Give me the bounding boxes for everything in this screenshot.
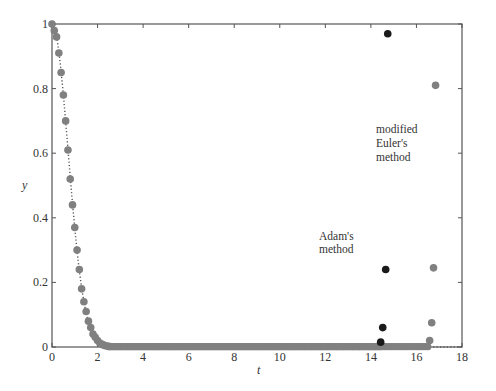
x-tick-label: 18 [456,350,468,364]
euler-point [48,20,56,28]
y-tick-label: 0.8 [33,82,48,96]
annotation-line: method [319,243,354,255]
euler-point [80,298,88,306]
x-axis-label: t [257,363,261,377]
adams-point [379,324,387,332]
exact-curve-path [52,24,462,347]
y-tick-label: 0.6 [33,146,48,160]
plot-frame [52,24,462,347]
euler-point [50,27,58,35]
euler-point [87,324,95,332]
x-tick-label: 12 [319,350,331,364]
euler-point [428,319,436,327]
euler-point [69,201,77,209]
euler-point [430,264,438,272]
euler-point [62,117,70,125]
x-tick-label: 6 [186,350,192,364]
euler-point [78,285,86,293]
annotation-adams: Adam's method [319,230,354,255]
euler-point [71,224,79,232]
y-axis-label: y [21,178,28,192]
plot-border [52,24,462,347]
euler-point [426,337,434,345]
y-tick-label: 0.2 [33,275,48,289]
axis-ticks: 02468101214161800.20.40.60.81 [33,17,468,364]
y-tick-label: 0 [42,340,48,354]
euler-point [55,49,63,57]
x-tick-label: 0 [49,350,55,364]
annotation-line: Adam's [319,230,354,242]
annotation-line: method [376,151,411,163]
euler-point [73,246,81,254]
euler-point [85,317,93,325]
euler-point [64,146,72,154]
x-tick-label: 4 [140,350,146,364]
chart-canvas: 02468101214161800.20.40.60.81 t y modifi… [0,0,496,391]
euler-point [60,91,68,99]
exact-solution-curve [52,24,462,347]
euler-point [432,82,440,90]
y-tick-label: 0.4 [33,211,48,225]
x-tick-label: 8 [231,350,237,364]
annotation-modified-euler: modified Euler's method [376,123,418,163]
euler-point [53,33,61,41]
x-tick-label: 14 [365,350,377,364]
y-tick-label: 1 [42,17,48,31]
annotation-line: Euler's [376,137,408,149]
euler-point [66,175,74,183]
euler-point [105,343,113,351]
euler-point [57,69,65,77]
adams-point [382,266,390,274]
x-tick-label: 10 [274,350,286,364]
x-tick-label: 2 [95,350,101,364]
euler-point [76,266,84,274]
data-points [48,20,439,350]
adams-point [384,30,392,38]
annotation-line: modified [376,123,418,135]
euler-point [82,308,90,316]
x-tick-label: 16 [410,350,422,364]
adams-point [377,338,385,346]
